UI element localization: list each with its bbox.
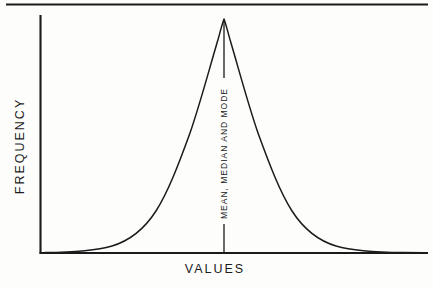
y-axis-label: FREQUENCY bbox=[13, 87, 27, 205]
figure-normal-distribution: FREQUENCY VALUES MEAN, MEDIAN AND MODE bbox=[0, 0, 433, 288]
x-axis-label: VALUES bbox=[160, 262, 270, 276]
distribution-curve bbox=[45, 19, 424, 253]
mean-median-mode-label: MEAN, MEDIAN AND MODE bbox=[219, 91, 229, 219]
chart-canvas bbox=[0, 0, 433, 288]
